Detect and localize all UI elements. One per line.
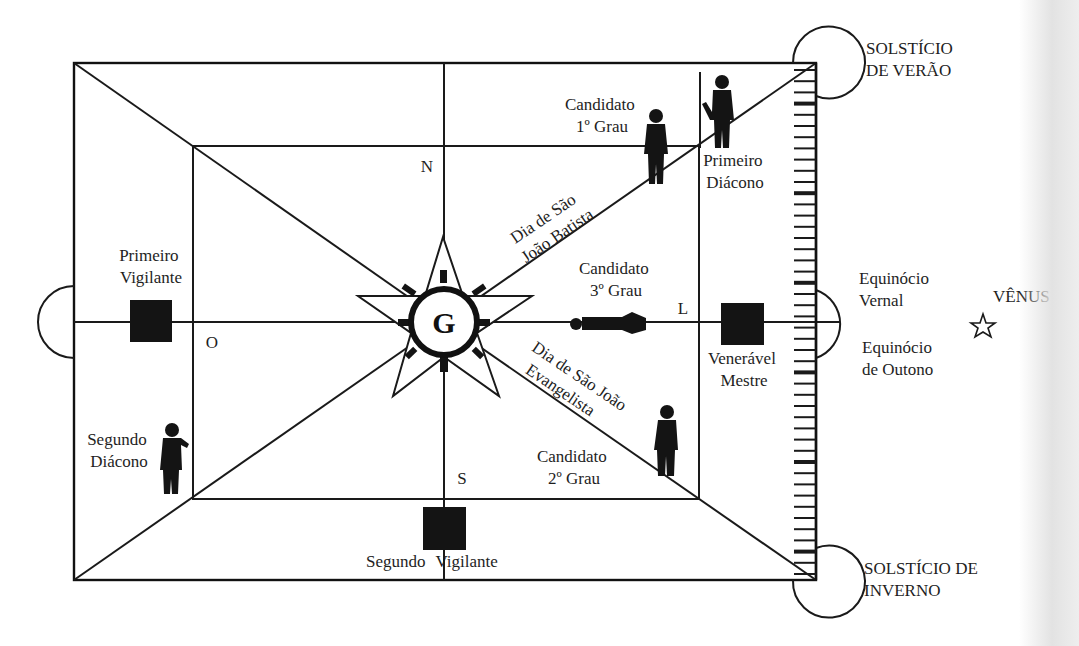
candidato-3-grau-label: Candidato 3º Grau <box>579 259 653 300</box>
center-g-letter: G <box>432 306 455 339</box>
primeiro-diacono-person-icon <box>702 75 734 148</box>
west-semicircle <box>38 286 74 358</box>
lodge-diagram: G N S L O Primeiro Vigilante Segundo Vig… <box>0 0 1079 646</box>
equinocio-outono-label: Equinócio de Outono <box>862 338 936 379</box>
sao-joao-evangelista-label: Dia de São João Evangelista <box>516 338 634 436</box>
veneravel-mestre-label: Venerável Mestre <box>708 349 780 390</box>
segundo-diacono-label: Segundo Diácono <box>87 430 151 471</box>
primeiro-vigilante-label: Primeiro Vigilante <box>119 246 183 287</box>
equinocio-vernal-label: Equinócio Vernal <box>859 269 933 310</box>
segundo-vigilante-label: Segundo Vigilante <box>366 552 498 571</box>
east-label: L <box>678 299 688 318</box>
solsticio-verao-label: SOLSTÍCIO DE VERÃO <box>866 39 957 80</box>
candidato-1-grau-label: Candidato 1º Grau <box>565 95 639 136</box>
sao-joao-batista-label: Dia de São João Batista <box>505 186 597 266</box>
segundo-diacono-person-icon <box>160 423 189 494</box>
candidato-1-grau-person-icon <box>644 109 668 184</box>
candidato-2-grau-person-icon <box>654 405 678 476</box>
candidato-3-grau-person-icon <box>570 312 646 334</box>
primeiro-vigilante-station-icon <box>130 300 172 342</box>
west-label: O <box>206 333 218 352</box>
veneravel-mestre-station-icon <box>721 303 764 345</box>
equinox-semicircle <box>816 290 840 358</box>
venus-star-icon <box>971 314 995 337</box>
candidato-2-grau-label: Candidato 2º Grau <box>537 447 611 488</box>
primeiro-diacono-label: Primeiro Diácono <box>703 151 767 192</box>
north-label: N <box>421 157 433 176</box>
winter-solstice-circle <box>793 546 865 618</box>
segundo-vigilante-station-icon <box>423 507 466 550</box>
south-label: S <box>457 469 466 488</box>
solsticio-inverno-label: SOLSTÍCIO DE INVERNO <box>864 559 982 600</box>
page-edge-shadow <box>1019 0 1079 646</box>
